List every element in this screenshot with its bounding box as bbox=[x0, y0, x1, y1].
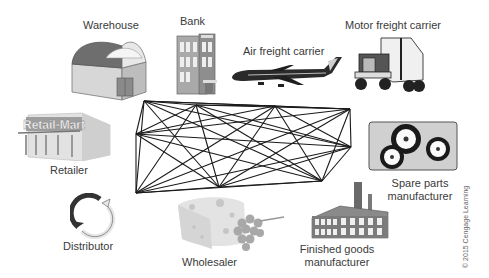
network-edge bbox=[136, 105, 196, 134]
gears-icon bbox=[368, 121, 458, 171]
bank-label: Bank bbox=[180, 15, 205, 28]
finished-goods-label-line2: manufacturer bbox=[293, 256, 381, 269]
airplane-icon bbox=[228, 55, 343, 91]
network-edge bbox=[136, 106, 275, 193]
cycle-arrows-icon bbox=[70, 193, 116, 239]
cheese-grapes-icon bbox=[172, 193, 292, 253]
warehouse-icon bbox=[70, 36, 150, 102]
truck-icon bbox=[353, 36, 428, 96]
spare-parts-label-line1: Spare parts bbox=[380, 177, 460, 190]
factory-icon bbox=[310, 180, 390, 242]
network-edge bbox=[350, 109, 351, 147]
finished-goods-label: Finished goods manufacturer bbox=[293, 243, 381, 269]
bank-building-icon bbox=[175, 32, 220, 96]
spare-parts-label: Spare parts manufacturer bbox=[380, 177, 460, 203]
retail-sign: Retail-Mart bbox=[23, 118, 85, 132]
network-edge bbox=[275, 106, 351, 147]
warehouse-label: Warehouse bbox=[83, 19, 139, 32]
retail-store-icon: Retail-Mart bbox=[14, 111, 114, 161]
network-edge bbox=[136, 101, 144, 193]
network-edge bbox=[219, 106, 275, 187]
finished-goods-label-line1: Finished goods bbox=[293, 243, 381, 256]
network-edge bbox=[144, 101, 219, 187]
wholesaler-label: Wholesaler bbox=[182, 256, 237, 269]
motor-freight-label: Motor freight carrier bbox=[345, 19, 441, 32]
network-edge bbox=[136, 105, 196, 193]
distributor-label: Distributor bbox=[63, 240, 113, 253]
retailer-label: Retailer bbox=[50, 164, 88, 177]
network-edge bbox=[136, 134, 322, 181]
spare-parts-label-line2: manufacturer bbox=[380, 190, 460, 203]
copyright-notice: © 2015 Cengage Learning bbox=[462, 186, 469, 268]
